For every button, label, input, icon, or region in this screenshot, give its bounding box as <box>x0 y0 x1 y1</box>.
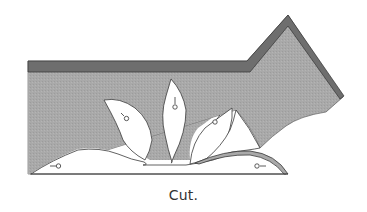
cut-diagram <box>0 0 367 212</box>
figure-caption: Cut. <box>0 187 367 203</box>
